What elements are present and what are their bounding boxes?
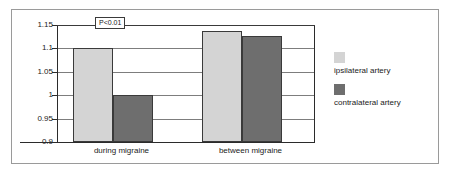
y-axis-labels: 0.90.9511.051.11.15: [17, 0, 53, 178]
legend-entry: ipsilateral artery: [334, 52, 434, 75]
legend-color-swatch: [334, 84, 345, 95]
y-axis-tick-label: 1.15: [21, 21, 53, 29]
x-axis-line: [57, 142, 315, 143]
y-axis-tick-mark: [52, 72, 57, 73]
y-axis-tick-mark: [52, 95, 57, 96]
chart-legend: ipsilateral arterycontralateral artery: [334, 52, 434, 116]
plot-area: [57, 25, 315, 142]
bar: [202, 31, 242, 142]
y-axis-tick-mark: [52, 25, 57, 26]
x-axis-category-label: between migraine: [186, 146, 315, 156]
bar: [113, 95, 153, 142]
y-axis-tick-label: 1.1: [21, 44, 53, 52]
legend-label: ipsilateral artery: [334, 66, 434, 75]
bar-chart-figure: 0.90.9511.051.11.15 P<0.01 ipsilateral a…: [0, 0, 453, 178]
legend-color-swatch: [334, 52, 345, 63]
y-axis-tick-label: 0.95: [21, 115, 53, 123]
y-axis-tick-label: 1.05: [21, 68, 53, 76]
y-axis-tick-mark: [52, 48, 57, 49]
legend-entry: contralateral artery: [334, 84, 434, 107]
x-axis-category-label: during migraine: [57, 146, 186, 156]
legend-label: contralateral artery: [334, 98, 434, 107]
y-axis-tick-label: 1: [21, 91, 53, 99]
y-axis-tick-mark: [52, 142, 57, 143]
bar: [73, 48, 113, 142]
y-axis-tick-mark: [52, 119, 57, 120]
bar: [242, 36, 282, 142]
p-value-annotation: P<0.01: [95, 17, 125, 29]
